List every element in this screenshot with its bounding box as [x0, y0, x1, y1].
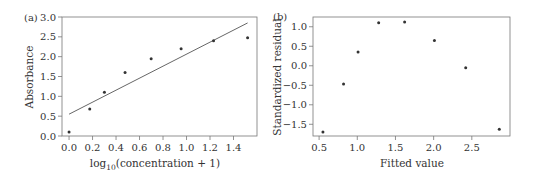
figure: (a) 0.00.51.01.52.02.53.0 0.00.20.40.60.…: [0, 0, 536, 177]
y-tick-label: 1.5: [40, 71, 56, 82]
panel-a-label: (a): [24, 12, 38, 23]
panel-a-regression-line: [69, 23, 248, 114]
panel-b-frame: [313, 17, 510, 136]
panel-b-x-axis-label: Fitted value: [380, 157, 444, 169]
x-tick-label: 1.5: [388, 142, 404, 153]
y-tick-label: 2.5: [40, 31, 56, 42]
data-point: [357, 51, 360, 54]
data-point: [498, 128, 501, 131]
y-tick-label: 1.0: [291, 21, 307, 32]
data-point: [150, 57, 153, 60]
panel-a-x-ticks: 0.00.20.40.60.81.01.21.4: [61, 136, 241, 153]
x-tick-label: 0.0: [61, 142, 77, 153]
data-point: [464, 66, 467, 69]
y-tick-label: 0.5: [40, 111, 56, 122]
y-tick-label: 0.0: [40, 131, 56, 142]
x-tick-label: 0.8: [155, 142, 171, 153]
x-tick-label: 0.2: [85, 142, 101, 153]
x-tick-label: 1.0: [349, 142, 365, 153]
panel-b-y-ticks: −1.5−1.0−0.50.00.51.0: [283, 21, 313, 130]
x-tick-label: 0.6: [132, 142, 148, 153]
panel-b-residual-plot: (b) −1.5−1.0−0.50.00.51.0 0.51.01.52.02.…: [271, 11, 510, 169]
panel-b-x-ticks: 0.51.01.52.02.5: [311, 136, 480, 153]
x-tick-label: 1.4: [226, 142, 242, 153]
data-point: [342, 83, 345, 86]
y-tick-label: −0.5: [283, 80, 307, 91]
panel-a-data-points: [68, 36, 250, 133]
data-point: [377, 21, 380, 24]
panel-a-y-axis-label: Absorbance: [23, 46, 35, 110]
y-tick-label: 0.0: [291, 60, 307, 71]
data-point: [433, 39, 436, 42]
data-point: [246, 36, 249, 39]
x-tick-label: 2.5: [464, 142, 480, 153]
y-tick-label: 0.5: [291, 41, 307, 52]
data-point: [68, 131, 71, 134]
x-tick-label: 1.2: [202, 142, 218, 153]
data-point: [212, 39, 215, 42]
panel-a-absorbance-plot: (a) 0.00.51.01.52.02.53.0 0.00.20.40.60.…: [23, 12, 257, 173]
x-tick-label: 2.0: [426, 142, 442, 153]
x-tick-label: 0.4: [108, 142, 124, 153]
panel-a-x-axis-label: log10(concentration + 1): [90, 157, 220, 172]
x-tick-label: 0.5: [311, 142, 327, 153]
data-point: [103, 91, 106, 94]
y-tick-label: −1.5: [283, 119, 307, 130]
y-tick-label: 2.0: [40, 51, 56, 62]
y-tick-label: 1.0: [40, 91, 56, 102]
y-tick-label: −1.0: [283, 99, 307, 110]
panel-a-y-ticks: 0.00.51.01.52.02.53.0: [40, 12, 62, 142]
x-tick-label: 1.0: [179, 142, 195, 153]
y-tick-label: 3.0: [40, 12, 56, 23]
panel-b-data-points: [321, 21, 500, 134]
data-point: [180, 47, 183, 50]
panel-a-frame: [62, 17, 257, 136]
data-point: [124, 71, 127, 74]
data-point: [321, 131, 324, 134]
data-point: [403, 21, 406, 24]
panel-b-y-axis-label: Standardized residual: [271, 18, 283, 136]
data-point: [88, 108, 91, 111]
